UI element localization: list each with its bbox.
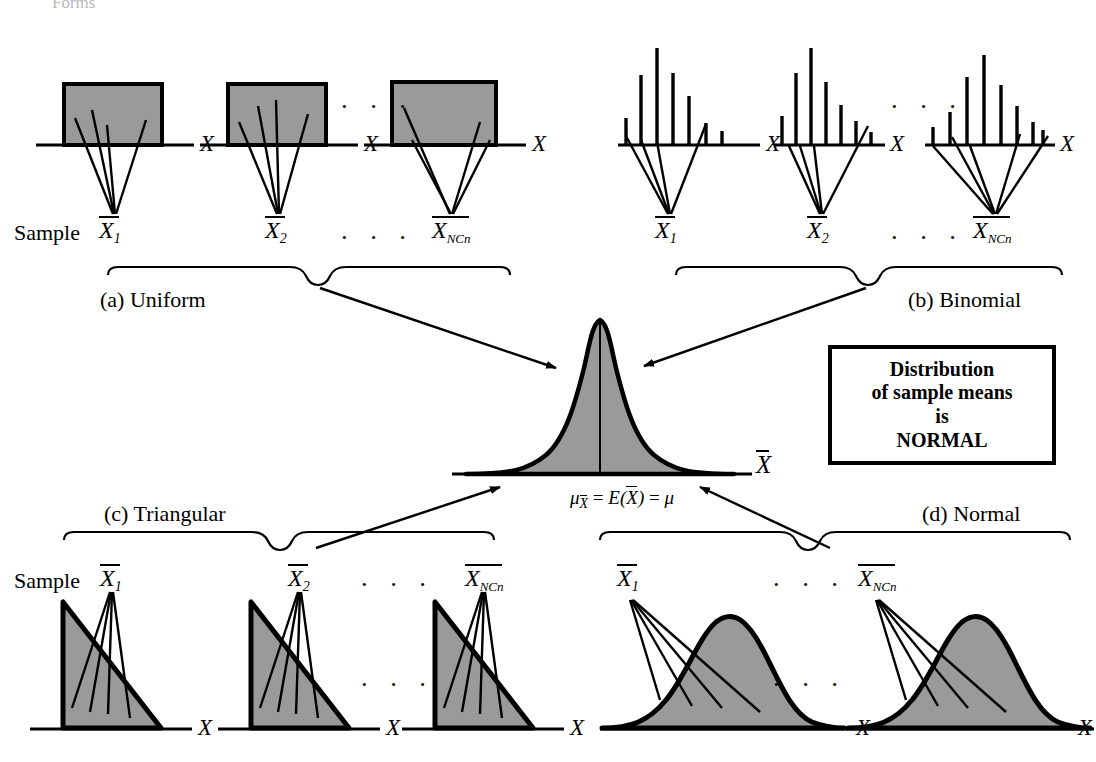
- arrow-triangular-to-center: [316, 487, 500, 548]
- section-label-d: (d) Normal: [922, 503, 1020, 525]
- axis-label-x-binomial-2: X: [890, 132, 904, 155]
- axis-label-x-normal-1: X: [856, 716, 870, 739]
- axis-label-x-triangular-3: X: [570, 716, 584, 739]
- ellipsis-binomial-plots: · · ·: [890, 94, 964, 120]
- sample-word-triangular: Sample: [14, 570, 80, 592]
- sample-mean-label-triangular-2: X2: [288, 566, 310, 594]
- triangular-plot-1: [30, 592, 192, 729]
- figure-canvas: Forms: [0, 0, 1096, 762]
- sample-mean-label-normal-1: X1: [617, 566, 639, 594]
- callout-line-4: NORMAL: [896, 429, 987, 453]
- axis-label-x-normal-2: X: [1078, 716, 1092, 739]
- axis-label-x-uniform-3: X: [532, 132, 546, 155]
- callout-line-1: Distribution: [890, 358, 994, 382]
- sample-mean-label-uniform-1: X1: [99, 218, 121, 246]
- sample-mean-label-binomial-3: XNCn: [973, 218, 1012, 245]
- panel-c-triangular: [30, 532, 564, 729]
- ellipsis-binomial-labels: · · ·: [890, 225, 964, 251]
- binomial-plot-1: [618, 48, 760, 214]
- normal-plot-2: [846, 600, 1094, 729]
- sample-mean-label-triangular-1: X1: [100, 566, 122, 594]
- callout-line-2: of sample means: [871, 381, 1012, 405]
- sample-mean-label-normal-2: XNCn: [858, 566, 897, 593]
- uniform-plot-2: [200, 84, 358, 214]
- sample-mean-label-binomial-2: X2: [807, 218, 829, 246]
- axis-label-x-triangular-2: X: [386, 716, 400, 739]
- uniform-plot-1: [36, 84, 194, 214]
- ellipsis-triangular-plots: · · ·: [360, 672, 434, 698]
- normal-callout-box: Distribution of sample means is NORMAL: [828, 345, 1056, 465]
- arrow-uniform-to-center: [320, 288, 556, 368]
- section-label-a: (a) Uniform: [100, 289, 206, 311]
- ellipsis-uniform-plots: · · ·: [340, 94, 414, 120]
- axis-label-x-uniform-1: X: [200, 132, 214, 155]
- ellipsis-normal-plots: · · ·: [772, 672, 846, 698]
- normal-plot-1: [600, 600, 848, 729]
- section-label-c: (c) Triangular: [104, 503, 226, 525]
- panel-b-binomial: [618, 48, 1062, 285]
- axis-label-x-binomial-3: X: [1060, 132, 1074, 155]
- binomial-plot-2: [775, 48, 885, 214]
- ellipsis-triangular-labels: · · ·: [360, 572, 434, 598]
- callout-line-3: is: [935, 405, 948, 429]
- ellipsis-normal-labels: · · ·: [772, 572, 846, 598]
- mean-formula: μX = E(X) = μ: [570, 487, 674, 512]
- axis-label-x-uniform-2: X: [364, 132, 378, 155]
- arrow-normal-to-center: [700, 487, 830, 548]
- triangular-plot-3: [402, 592, 564, 729]
- panel-a-uniform: [36, 82, 526, 285]
- section-label-b: (b) Binomial: [908, 289, 1021, 311]
- sample-word-uniform: Sample: [14, 222, 80, 244]
- panel-d-normal: [600, 532, 1094, 729]
- triangular-plot-2: [218, 592, 380, 729]
- sample-mean-label-triangular-3: XNCn: [465, 566, 504, 593]
- axis-label-x-binomial-1: X: [766, 132, 780, 155]
- sample-mean-label-uniform-2: X2: [265, 218, 287, 246]
- ellipsis-uniform-labels: · · ·: [340, 225, 414, 251]
- sample-mean-label-uniform-3: XNCn: [432, 218, 471, 245]
- sample-mean-label-binomial-1: X1: [655, 218, 677, 246]
- axis-label-xbar-center: X: [756, 452, 771, 477]
- axis-label-x-triangular-1: X: [198, 716, 212, 739]
- binomial-plot-3: [925, 55, 1055, 214]
